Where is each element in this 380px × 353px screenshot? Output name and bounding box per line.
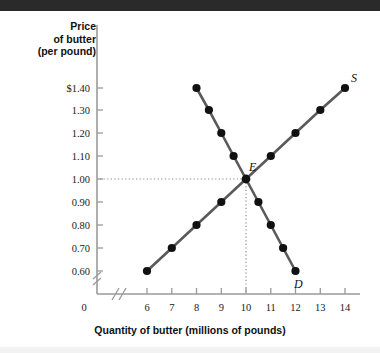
footer-band xyxy=(0,347,380,353)
y-tick-label: 0.80 xyxy=(72,220,90,231)
supply-point xyxy=(267,152,275,160)
demand-point xyxy=(217,129,225,137)
x-tick-label: 9 xyxy=(219,302,224,313)
origin-label: 0 xyxy=(81,302,86,313)
x-tick-label: 12 xyxy=(290,302,301,313)
y-tick-label: 1.30 xyxy=(72,105,90,116)
x-tick-label: 6 xyxy=(144,302,149,313)
y-tick-label: 0.90 xyxy=(72,197,90,208)
y-axis-tick-labels: $1.40 1.30 1.20 1.10 1.00 0.90 0.80 0.70… xyxy=(66,83,90,277)
supply-point xyxy=(168,244,176,252)
demand-point xyxy=(254,198,262,206)
y-tick-label: $1.40 xyxy=(66,83,90,94)
y-tick-label: 0.60 xyxy=(72,266,90,277)
equilibrium-guides xyxy=(100,179,246,294)
axes xyxy=(93,25,360,300)
supply-point xyxy=(341,84,349,92)
x-tick-label: 7 xyxy=(169,302,174,313)
y-tick-label: 0.70 xyxy=(72,243,90,254)
demand-point xyxy=(205,106,213,114)
plot-area: $1.40 1.30 1.20 1.10 1.00 0.90 0.80 0.70… xyxy=(0,11,380,347)
supply-point xyxy=(291,129,299,137)
equilibrium-label: E xyxy=(248,160,257,174)
demand-point xyxy=(192,84,200,92)
y-tick-label: 1.00 xyxy=(72,174,90,185)
demand-point xyxy=(291,267,299,275)
demand-point xyxy=(230,152,238,160)
demand-point xyxy=(279,244,287,252)
x-axis-tick-labels: 0 6 7 8 9 10 11 12 13 14 xyxy=(81,302,351,313)
supply-point xyxy=(192,221,200,229)
equilibrium-point xyxy=(242,175,251,184)
x-tick-label: 14 xyxy=(340,302,351,313)
supply-point xyxy=(217,198,225,206)
x-tick-label: 8 xyxy=(194,302,199,313)
header-band xyxy=(0,0,380,11)
x-tick-label: 13 xyxy=(315,302,326,313)
x-tick-label: 10 xyxy=(241,302,252,313)
supply-point xyxy=(316,106,324,114)
x-tick-label: 11 xyxy=(266,302,276,313)
demand-curve-label: D xyxy=(293,277,303,291)
supply-demand-figure: Price of butter (per pound) Quantity of … xyxy=(0,11,380,347)
supply-curve-label: S xyxy=(351,71,357,85)
y-tick-label: 1.20 xyxy=(72,128,90,139)
supply-point xyxy=(143,267,151,275)
y-tick-label: 1.10 xyxy=(72,151,90,162)
demand-point xyxy=(267,221,275,229)
